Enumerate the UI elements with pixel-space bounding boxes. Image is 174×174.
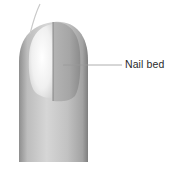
finger-illustration [0, 0, 174, 174]
label-nail-bed: Nail bed [125, 58, 164, 70]
